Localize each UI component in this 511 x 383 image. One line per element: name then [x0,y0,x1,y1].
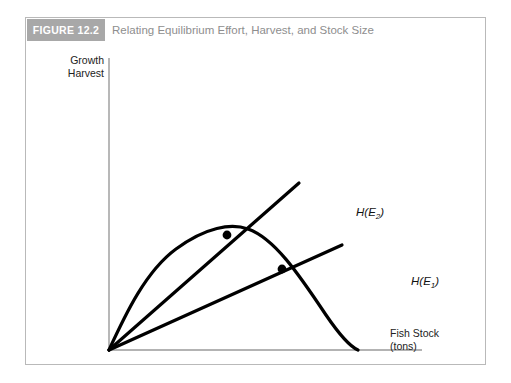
curve-label-he1: H(E1) [411,275,439,290]
figure-root: FIGURE 12.2 Relating Equilibrium Effort,… [0,0,511,383]
plot-area: Growth Harvest Fish Stock (tons) H(E2) H… [26,43,485,364]
harvest-line-e2 [109,183,299,350]
x-axis-label: Fish Stock (tons) [390,327,439,352]
curve-label-he2-suffix: ) [380,206,384,218]
curve-label-he2-prefix: H(E [356,206,376,218]
plot-canvas [26,43,485,364]
curve-label-he1-prefix: H(E [411,275,431,287]
equilibrium-point-e2 [223,231,232,240]
y-axis-label-line1: Growth [38,54,104,67]
x-axis-label-line2: (tons) [390,340,439,353]
equilibrium-point-e1 [278,265,287,274]
figure-title: Relating Equilibrium Effort, Harvest, an… [112,19,374,41]
harvest-line-e1 [109,245,342,350]
x-axis-label-line1: Fish Stock [390,327,439,340]
y-axis-label: Growth Harvest [38,54,104,79]
curve-label-he1-suffix: ) [435,275,439,287]
figure-number-badge: FIGURE 12.2 [27,19,105,41]
curve-label-he2: H(E2) [356,206,384,221]
figure-header: FIGURE 12.2 Relating Equilibrium Effort,… [26,18,487,43]
figure-panel: FIGURE 12.2 Relating Equilibrium Effort,… [25,17,486,365]
y-axis-label-line2: Harvest [38,67,104,80]
